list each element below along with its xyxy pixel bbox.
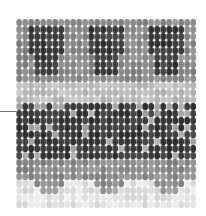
stitch — [190, 173, 196, 180]
stitch — [190, 47, 196, 54]
stitch — [190, 89, 196, 96]
stitch — [190, 68, 196, 75]
stitch — [190, 40, 196, 47]
stitch — [190, 159, 196, 166]
stitch — [190, 61, 196, 68]
stitch — [190, 26, 196, 33]
stitch — [190, 117, 196, 124]
knitted-fabric-swatch — [16, 19, 196, 208]
stitch — [190, 75, 196, 82]
stitch — [190, 103, 196, 110]
stitch — [190, 166, 196, 173]
stitch — [190, 110, 196, 117]
stitch — [190, 145, 196, 152]
stitch — [190, 33, 196, 40]
stitch — [190, 201, 196, 208]
leader-line — [0, 111, 16, 112]
stitch — [190, 54, 196, 61]
stitch — [190, 138, 196, 145]
stitch — [190, 124, 196, 131]
stitch — [190, 187, 196, 194]
stitch — [190, 96, 196, 103]
stitch — [190, 152, 196, 159]
stitch — [190, 180, 196, 187]
stitch — [190, 194, 196, 201]
stitch — [190, 82, 196, 89]
stitch — [190, 19, 196, 26]
stitch — [190, 131, 196, 138]
